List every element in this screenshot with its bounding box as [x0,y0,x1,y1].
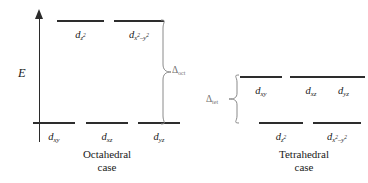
tetrahedral-caption-line-1: Tetrahedral [252,148,356,161]
octahedral-level-bar-dz2 [57,20,104,22]
octahedral-orbital-label-dz2: dz2 [57,30,104,41]
octahedral-orbital-label-dyz: dyz [138,132,180,143]
octahedral-orbital-label-dxz: dxz [86,132,128,143]
octahedral-caption-line-1: Octahedral [58,148,156,161]
tetrahedral-level-bar-dz2 [259,122,303,124]
tetrahedral-splitting-brace [227,74,240,124]
crystal-field-splitting-figure: E dz2 dx2–y2 dxy dxz dyz Δoct Octahedral… [0,0,368,183]
tetrahedral-case-caption: Tetrahedral case [252,148,356,173]
tetrahedral-orbital-label-dz2: dz2 [259,132,303,143]
octahedral-orbital-label-dxy: dxy [33,132,75,143]
octahedral-level-bar-dxy [33,122,75,124]
tetrahedral-level-bar-dx2y2 [313,122,361,124]
tetrahedral-orbital-label-dxy: dxy [240,86,282,97]
tetrahedral-level-bar-dyz [322,76,365,78]
tetrahedral-level-bar-dxy [240,76,282,78]
octahedral-caption-line-2: case [58,161,156,174]
tetrahedral-delta-subscript: tet [212,99,218,105]
tetrahedral-splitting-label: Δtet [206,95,218,105]
octahedral-level-bar-dxz [86,122,128,124]
energy-axis-label: E [18,67,26,80]
octahedral-level-bar-dx2y2 [114,20,164,22]
tetrahedral-orbital-label-dyz: dyz [322,86,365,97]
tetrahedral-orbital-label-dx2y2: dx2–y2 [308,132,366,143]
octahedral-case-caption: Octahedral case [58,148,156,173]
octahedral-splitting-label: Δoct [172,66,185,76]
tetrahedral-caption-line-2: case [252,161,356,174]
octahedral-delta-subscript: oct [178,70,185,76]
